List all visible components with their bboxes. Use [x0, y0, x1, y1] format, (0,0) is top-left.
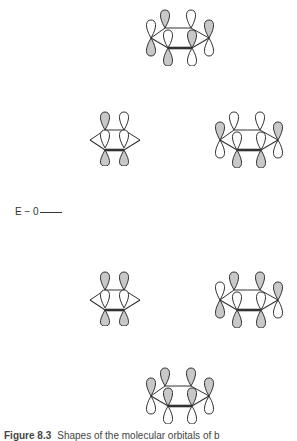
orbital-psi1	[146, 366, 216, 424]
figure-number: Figure 8.3	[4, 430, 51, 441]
orbital-psi2	[88, 270, 144, 326]
orbital-psi6	[146, 8, 216, 66]
figure-caption-text: Shapes of the molecular orbitals of b	[57, 430, 219, 441]
energy-zero-label: E − 0	[15, 206, 39, 217]
orbital-psi4	[88, 110, 144, 166]
orbital-psi3	[215, 270, 285, 328]
orbital-psi5	[215, 110, 285, 168]
energy-zero-line	[40, 212, 62, 213]
figure-caption: Figure 8.3Shapes of the molecular orbita…	[4, 430, 220, 441]
